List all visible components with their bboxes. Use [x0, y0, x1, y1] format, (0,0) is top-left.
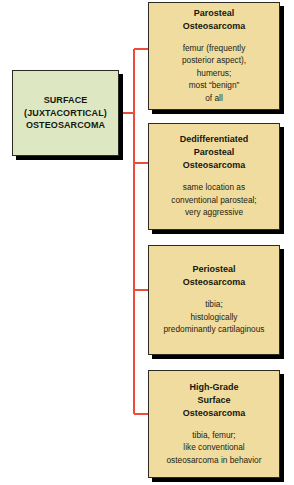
- node-title-line: Dedifferentiated: [180, 133, 249, 146]
- node-title-line: Osteosarcoma: [183, 20, 246, 33]
- node-title-line: Parosteal: [183, 7, 246, 20]
- node-desc-line: predominantly cartilaginous: [163, 323, 264, 335]
- node-description: femur (frequently posterior aspect), hum…: [182, 42, 246, 104]
- node-description: tibia, femur; like conventional osteosar…: [166, 429, 261, 466]
- node-title-line: Osteosarcoma: [180, 159, 249, 172]
- node-desc-line: tibia;: [163, 298, 264, 310]
- node-desc-line: conventional parosteal;: [171, 194, 256, 206]
- node-title-line: Periosteal: [183, 263, 246, 276]
- node-desc-line: humerus;: [182, 67, 246, 79]
- node-title: Parosteal Osteosarcoma: [183, 7, 246, 33]
- node-desc-line: most “benign”: [182, 79, 246, 91]
- node-title: SURFACE (JUXTACORTICAL) OSTEOSARCOMA: [24, 94, 107, 132]
- node-title-line: Osteosarcoma: [183, 407, 246, 420]
- node-desc-line: tibia, femur;: [166, 429, 261, 441]
- node-title-line: (JUXTACORTICAL): [24, 107, 107, 120]
- node-title-line: OSTEOSARCOMA: [24, 119, 107, 132]
- node-dedifferentiated-parosteal-osteosarcoma: Dedifferentiated Parosteal Osteosarcoma …: [148, 123, 280, 230]
- node-desc-line: osteosarcoma in behavior: [166, 454, 261, 466]
- node-title-line: High-Grade: [183, 381, 246, 394]
- node-desc-line: very aggressive: [171, 206, 256, 218]
- node-title: Dedifferentiated Parosteal Osteosarcoma: [180, 133, 249, 172]
- node-description: tibia; histologically predominantly cart…: [163, 298, 264, 335]
- node-title-line: Parosteal: [180, 146, 249, 159]
- node-title-line: Osteosarcoma: [183, 276, 246, 289]
- node-title: High-Grade Surface Osteosarcoma: [183, 381, 246, 420]
- node-description: same location as conventional parosteal;…: [171, 181, 256, 218]
- diagram-canvas: SURFACE (JUXTACORTICAL) OSTEOSARCOMA Par…: [0, 0, 294, 485]
- node-parosteal-osteosarcoma: Parosteal Osteosarcoma femur (frequently…: [148, 2, 280, 110]
- node-title: Periosteal Osteosarcoma: [183, 263, 246, 289]
- node-title-line: SURFACE: [24, 94, 107, 107]
- node-high-grade-surface-osteosarcoma: High-Grade Surface Osteosarcoma tibia, f…: [148, 370, 280, 478]
- node-desc-line: posterior aspect),: [182, 54, 246, 66]
- node-desc-line: like conventional: [166, 441, 261, 453]
- node-surface-juxtacortical-osteosarcoma: SURFACE (JUXTACORTICAL) OSTEOSARCOMA: [12, 70, 119, 156]
- node-desc-line: femur (frequently: [182, 42, 246, 54]
- node-title-line: Surface: [183, 394, 246, 407]
- node-periosteal-osteosarcoma: Periosteal Osteosarcoma tibia; histologi…: [148, 245, 280, 355]
- node-desc-line: of all: [182, 92, 246, 104]
- node-desc-line: same location as: [171, 181, 256, 193]
- node-desc-line: histologically: [163, 311, 264, 323]
